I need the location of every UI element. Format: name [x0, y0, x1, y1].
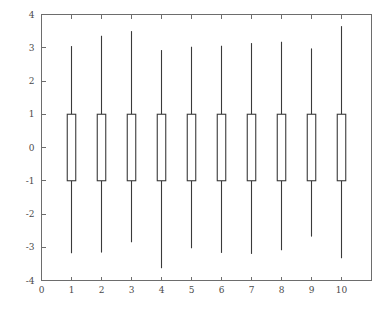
x-axis-tick-label: 4 — [159, 285, 165, 295]
y-axis-tick-label: 4 — [29, 10, 35, 20]
quartile-box — [67, 114, 76, 181]
box-plot-figure: -4-3-2-101234012345678910 — [0, 0, 392, 312]
y-axis-tick-label: 1 — [29, 109, 35, 119]
y-axis-tick-label: -1 — [26, 176, 35, 186]
y-axis-tick-label: -3 — [26, 242, 35, 252]
x-axis-tick-label: 1 — [69, 285, 75, 295]
quartile-box — [127, 114, 136, 181]
y-axis-tick-label: 2 — [29, 76, 35, 86]
x-axis-tick-label: 9 — [309, 285, 315, 295]
y-axis-tick-label: -2 — [26, 209, 35, 219]
quartile-box — [247, 114, 256, 181]
x-axis-tick-label: 5 — [189, 285, 195, 295]
box-plot-canvas: -4-3-2-101234012345678910 — [0, 0, 392, 312]
quartile-box — [187, 114, 196, 181]
y-axis-tick-label: 0 — [29, 143, 35, 153]
quartile-box — [217, 114, 226, 181]
x-axis-tick-label: 7 — [249, 285, 255, 295]
quartile-box — [277, 114, 286, 181]
x-axis-tick-label: 6 — [219, 285, 225, 295]
x-axis-tick-label: 10 — [336, 285, 348, 295]
quartile-box — [157, 114, 166, 181]
quartile-box — [337, 114, 346, 181]
y-axis-tick-label: 3 — [29, 43, 35, 53]
x-axis-tick-label: 8 — [279, 285, 285, 295]
x-axis-tick-label: 0 — [39, 285, 45, 295]
quartile-box — [307, 114, 316, 181]
y-axis-tick-label: -4 — [26, 276, 35, 286]
x-axis-tick-label: 3 — [129, 285, 135, 295]
x-axis-tick-label: 2 — [99, 285, 105, 295]
quartile-box — [97, 114, 106, 181]
